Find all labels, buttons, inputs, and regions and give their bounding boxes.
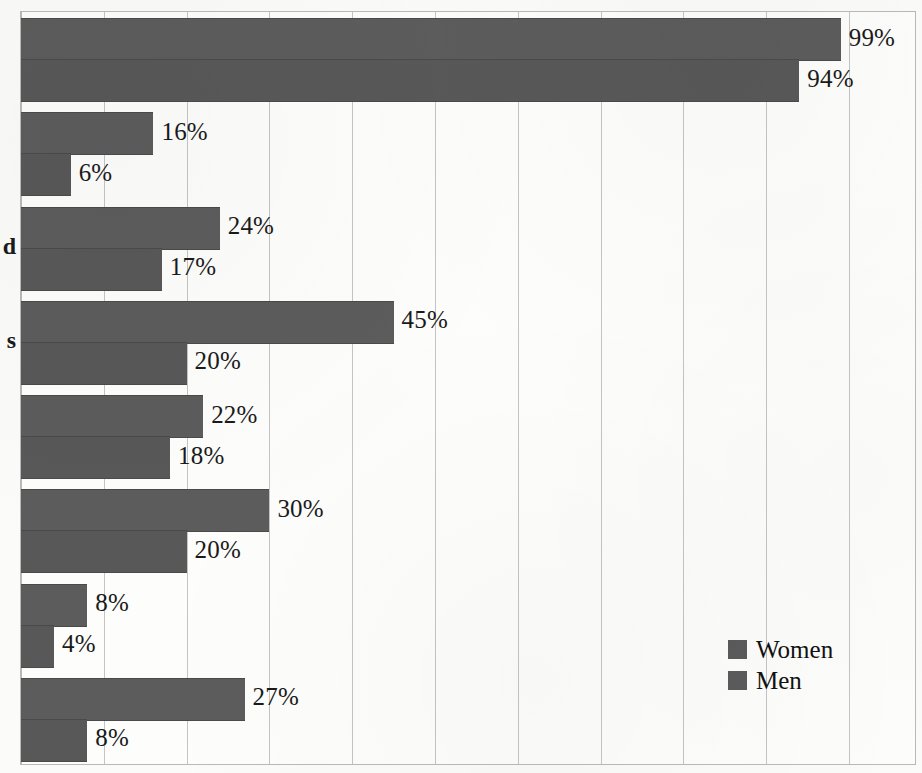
bar-women-1 <box>21 112 153 155</box>
bar-men-4 <box>21 436 170 479</box>
bar-women-0 <box>21 18 841 61</box>
bar-value-label: 20% <box>195 347 241 375</box>
bar-value-label: 8% <box>95 589 129 617</box>
bar-value-label: 4% <box>62 630 96 658</box>
category-label-fragment: s <box>2 327 16 354</box>
gridline <box>435 12 436 764</box>
bar-men-5 <box>21 530 187 573</box>
bar-value-label: 17% <box>170 253 216 281</box>
chart-page: 99%94%16%6%24%17%45%20%22%18%30%20%8%4%2… <box>0 0 922 773</box>
gridline <box>601 12 602 764</box>
bar-men-1 <box>21 153 71 196</box>
legend-label: Women <box>756 637 833 662</box>
bar-value-label: 45% <box>402 306 448 334</box>
bar-value-label: 8% <box>95 724 129 752</box>
category-label-fragment: d <box>2 233 16 260</box>
legend-item-women: Women <box>728 634 833 665</box>
bar-women-6 <box>21 584 87 627</box>
bar-value-label: 6% <box>79 159 113 187</box>
legend-swatch-icon <box>728 671 747 690</box>
gridline <box>683 12 684 764</box>
bar-women-7 <box>21 678 245 721</box>
gridline <box>518 12 519 764</box>
bar-men-0 <box>21 59 799 102</box>
bar-value-label: 24% <box>228 212 274 240</box>
gridline <box>849 12 850 764</box>
bar-value-label: 16% <box>161 118 207 146</box>
bar-men-2 <box>21 248 162 291</box>
legend-item-men: Men <box>728 665 833 696</box>
bar-value-label: 94% <box>807 65 853 93</box>
bar-men-3 <box>21 342 187 385</box>
bar-value-label: 99% <box>849 24 895 52</box>
bar-value-label: 18% <box>178 442 224 470</box>
bar-women-3 <box>21 301 394 344</box>
bar-value-label: 20% <box>195 536 241 564</box>
gridline <box>269 12 270 764</box>
bar-value-label: 27% <box>253 683 299 711</box>
bar-value-label: 22% <box>211 401 257 429</box>
bar-men-7 <box>21 719 87 762</box>
gridline <box>352 12 353 764</box>
bar-women-4 <box>21 395 203 438</box>
bar-men-6 <box>21 625 54 668</box>
bar-value-label: 30% <box>277 495 323 523</box>
bar-women-2 <box>21 207 220 250</box>
bar-women-5 <box>21 489 269 532</box>
chart-legend: WomenMen <box>728 634 833 696</box>
legend-swatch-icon <box>728 640 747 659</box>
legend-label: Men <box>756 668 802 693</box>
